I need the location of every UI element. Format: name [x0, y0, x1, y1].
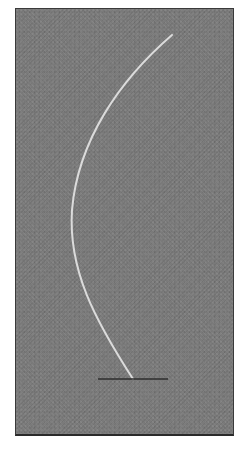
- curved-filament: [72, 35, 172, 379]
- arc-figure: [0, 0, 247, 449]
